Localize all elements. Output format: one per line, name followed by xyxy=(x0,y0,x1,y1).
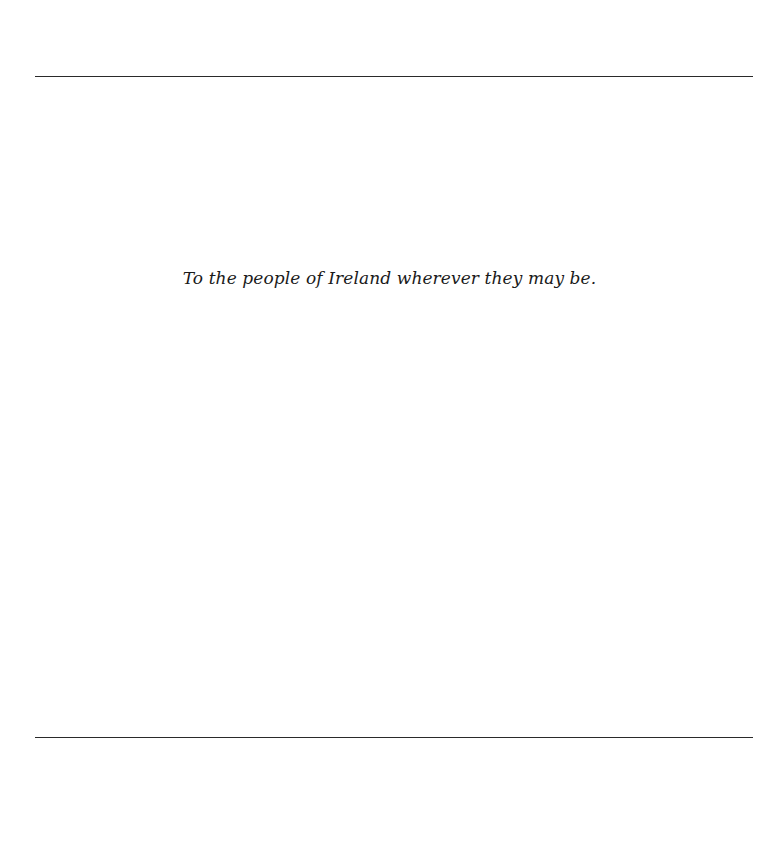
dedication-text: To the people of Ireland wherever they m… xyxy=(0,268,779,288)
bottom-horizontal-rule xyxy=(35,737,753,738)
top-horizontal-rule xyxy=(35,76,753,77)
